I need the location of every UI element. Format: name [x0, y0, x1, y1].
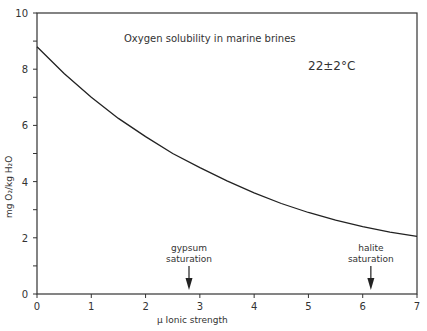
x-tick-label: 7 — [414, 301, 420, 312]
x-tick-label: 0 — [34, 301, 40, 312]
y-tick-label: 4 — [22, 177, 28, 188]
y-tick-label: 6 — [22, 120, 28, 131]
svg-text:saturation: saturation — [348, 254, 394, 264]
x-tick-label: 2 — [142, 301, 148, 312]
y-tick-label: 0 — [22, 289, 28, 300]
svg-text:gypsum: gypsum — [171, 243, 207, 253]
x-tick-label: 6 — [360, 301, 366, 312]
x-tick-label: 3 — [197, 301, 203, 312]
x-tick-label: 4 — [251, 301, 257, 312]
arrow-down-icon — [367, 278, 374, 290]
temperature-label: 22±2°C — [308, 59, 355, 73]
solubility-curve — [37, 47, 417, 237]
arrow-down-icon — [186, 278, 193, 290]
chart-title: Oxygen solubility in marine brines — [124, 33, 296, 44]
svg-text:halite: halite — [358, 243, 384, 253]
y-tick-label: 10 — [15, 8, 28, 19]
x-axis-label: μ Ionic strength — [157, 315, 228, 325]
x-tick-label: 5 — [305, 301, 311, 312]
saturation-marker: gypsumsaturation — [166, 243, 212, 290]
saturation-markers: gypsumsaturationhalitesaturation — [166, 243, 394, 290]
svg-text:saturation: saturation — [166, 254, 212, 264]
x-axis: 01234567 — [34, 294, 420, 312]
x-tick-label: 1 — [88, 301, 94, 312]
chart: 0246810 01234567 Oxygen solubility in ma… — [0, 0, 427, 331]
y-axis: 0246810 — [15, 8, 37, 300]
y-tick-label: 8 — [22, 64, 28, 75]
y-axis-label: mg O₂/kg H₂O — [4, 156, 14, 218]
saturation-marker: halitesaturation — [348, 243, 394, 290]
y-tick-label: 2 — [22, 233, 28, 244]
